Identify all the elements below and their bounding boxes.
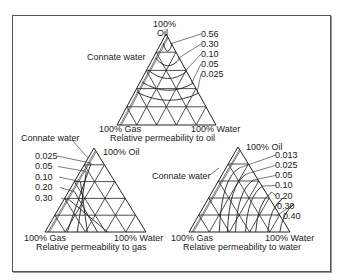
water-isoperm-label-2: 0.05 (275, 170, 293, 180)
oil-isoperm-label-0: 0.56 (201, 29, 219, 39)
gas-diagram-apex-label: 100% Oil (103, 147, 140, 157)
gas-diagram-connate-water-label: Connate water (21, 133, 80, 143)
oil-isoperm-label-4: 0.025 (201, 69, 224, 79)
water-isoperm-label-5: 0.30 (277, 201, 295, 211)
oil-isoperm-label-1: 0.30 (201, 39, 219, 49)
water-isoperm-label-1: 0.025 (275, 160, 298, 170)
oil-diagram-caption: Relative permeability to oil (110, 133, 215, 143)
water-isoperm-label-6: 0.40 (283, 211, 301, 221)
gas-diagram-caption: Relative permeability to gas (36, 242, 147, 252)
water-diagram-connate-water-label: Connate water (152, 171, 211, 181)
water-diagram-caption: Relative permeability to water (183, 242, 301, 252)
oil-isoperm-label-3: 0.05 (201, 59, 219, 69)
gas-isoperm-label-1: 0.05 (35, 161, 53, 171)
gas-isoperm-label-0: 0.025 (35, 151, 58, 161)
gas-isoperm-label-2: 0.10 (35, 172, 53, 182)
gas-isoperm-label-4: 0.30 (35, 193, 53, 203)
oil-diagram-apex-label-line2: Oil (157, 28, 168, 38)
oil-diagram-connate-water-label: Connate water (87, 52, 146, 62)
gas-isoperm-label-3: 0.20 (35, 182, 53, 192)
water-isoperm-label-3: 0.10 (275, 180, 293, 190)
water-isoperm-label-0: 0.013 (275, 150, 298, 160)
oil-isoperm-label-2: 0.10 (201, 49, 219, 59)
water-isoperm-label-4: 0.20 (275, 191, 293, 201)
